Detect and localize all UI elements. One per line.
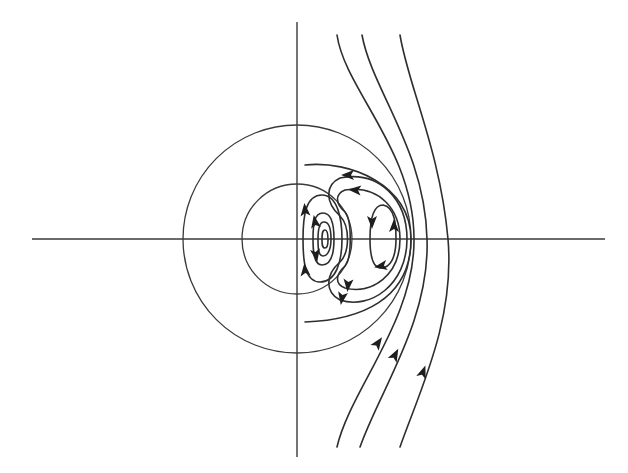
background (0, 0, 628, 473)
streamline-diagram (0, 0, 628, 473)
